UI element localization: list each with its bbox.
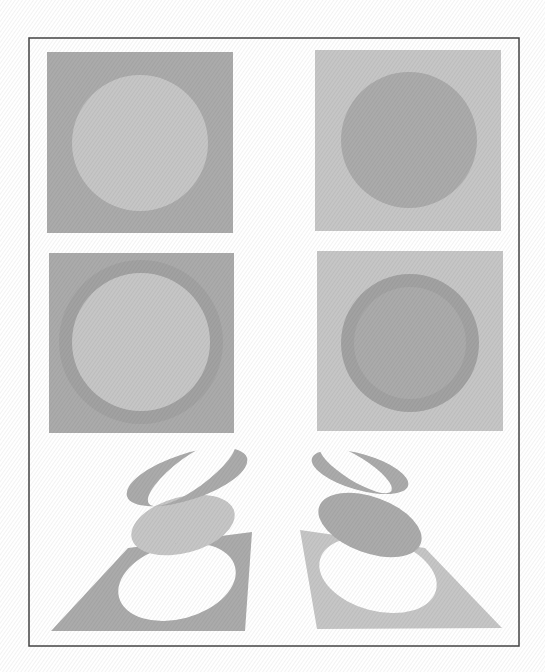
target-disk xyxy=(72,75,208,211)
target-disk xyxy=(341,72,477,208)
contrast-illusion-figure xyxy=(0,0,545,672)
panel-middle-left xyxy=(49,253,234,433)
target-disk xyxy=(354,287,466,399)
panel-top-left xyxy=(47,52,233,233)
target-disk xyxy=(72,273,210,411)
panel-middle-right xyxy=(317,251,503,431)
panel-top-right xyxy=(315,50,501,231)
